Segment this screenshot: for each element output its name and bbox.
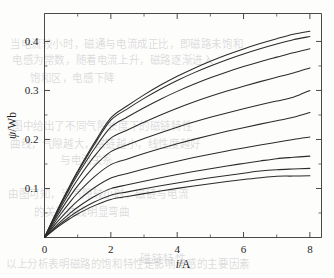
chart-plot: 02468 0.10.20.30.4 i/A ψ/Wb [0,0,334,278]
x-tick-label-2: 4 [174,243,180,255]
y-axis-major-ticks [45,41,322,237]
x-axis-major-ticks [45,14,310,238]
curve-10 [45,176,310,238]
y-axis-minor-ticks [45,66,322,213]
y-tick-label-3: 0.3 [25,84,39,96]
y-axis-tick-labels: 0.10.20.30.4 [25,35,39,194]
curve-series-group [45,31,310,237]
curve-7 [45,137,310,237]
x-axis-tick-labels: 02468 [42,243,313,255]
y-axis-title: ψ/Wb [6,112,19,139]
curve-4 [45,68,310,238]
y-tick-label-4: 0.4 [25,35,39,47]
x-tick-label-0: 0 [42,243,48,255]
y-tick-label-2: 0.2 [25,133,39,145]
x-tick-label-1: 2 [108,243,114,255]
y-tick-label-1: 0.1 [25,182,39,194]
curve-8 [45,156,310,237]
figure-container: 当电流较小时，磁通与电流成正比，即磁路未饱和 电感为常数，随着电流上升，磁路逐渐… [0,0,334,278]
x-tick-label-3: 6 [241,243,247,255]
x-tick-label-4: 8 [307,243,313,255]
axes-group: 02468 0.10.20.30.4 [25,14,322,255]
x-axis-minor-ticks [78,14,277,238]
x-axis-title: i/A [176,258,191,270]
curve-1 [45,31,310,237]
